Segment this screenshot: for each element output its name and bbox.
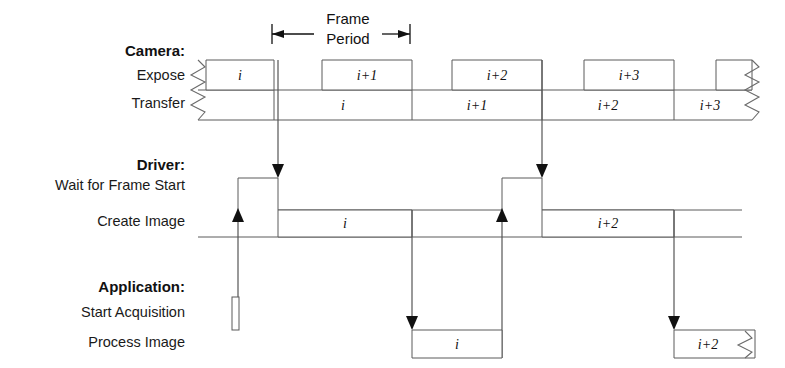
group-title-camera: Camera: — [125, 42, 185, 59]
wait-pulse-1 — [502, 178, 542, 210]
frame-start-arrowhead-1 — [536, 164, 548, 178]
waveform-create-image: i i+2 — [198, 210, 742, 237]
waveform-expose: i i+1 i+2 i+3 — [198, 60, 752, 90]
waveform-transfer: i i+1 i+2 i+3 — [198, 90, 752, 120]
row-label-create-image: Create Image — [97, 213, 185, 229]
row-label-process-image: Process Image — [88, 334, 185, 350]
return-arrowhead-0 — [232, 208, 244, 222]
waveform-start-acquisition — [232, 297, 239, 330]
wait-fall-1 — [542, 178, 742, 210]
frame-period-label-line1: Frame — [326, 10, 369, 27]
create-image-block-1-label: i+2 — [598, 216, 618, 231]
expose-block-1-label: i+1 — [357, 68, 377, 83]
expose-block-0-label: i — [238, 68, 242, 83]
frame-period-annotation: Frame Period — [272, 10, 410, 47]
transfer-block-2-label: i+2 — [598, 98, 618, 113]
process-image-block-1-label: i+2 — [698, 337, 718, 352]
frame-period-label-line2: Period — [326, 30, 369, 47]
frame-start-arrowhead-0 — [272, 164, 284, 178]
expose-block-4-truncated — [716, 60, 752, 90]
group-title-application: Application: — [98, 278, 185, 295]
transfer-block-3-label: i+3 — [700, 98, 720, 113]
frame-period-left-arrowhead — [272, 30, 284, 38]
row-label-transfer: Transfer — [132, 95, 186, 111]
start-acquisition-pulse — [232, 297, 239, 330]
waveform-wait-for-frame-start — [238, 178, 742, 210]
wait-pulse-0 — [238, 178, 278, 210]
create-image-block-0-label: i — [343, 216, 347, 231]
row-label-start-acquisition: Start Acquisition — [81, 304, 185, 320]
expose-block-2-label: i+2 — [487, 68, 507, 83]
group-title-driver: Driver: — [137, 156, 185, 173]
waveform-process-image: i i+2 — [412, 330, 755, 358]
process-trigger-arrowhead-0 — [406, 316, 418, 330]
expose-block-3-label: i+3 — [619, 68, 639, 83]
timing-diagram-page: Frame Period Camera: Driver: Application… — [0, 0, 785, 368]
camera-driver-application-timing-diagram: Frame Period Camera: Driver: Application… — [0, 0, 785, 368]
process-image-block-0-label: i — [455, 337, 459, 352]
wait-fall-0 — [278, 178, 502, 210]
row-label-wait-for-frame-start: Wait for Frame Start — [55, 177, 185, 193]
transfer-block-0-label: i — [341, 98, 345, 113]
process-trigger-arrowhead-1 — [668, 316, 680, 330]
row-label-expose: Expose — [137, 67, 185, 83]
frame-period-right-arrowhead — [398, 30, 410, 38]
transfer-block-1-label: i+1 — [467, 98, 487, 113]
